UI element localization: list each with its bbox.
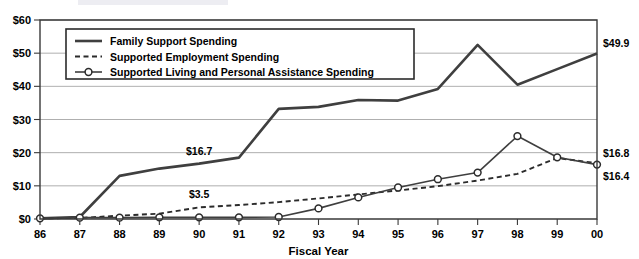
y-axis-tick-label: $50 [13,47,31,59]
data-point-marker [395,184,402,191]
data-point-marker [236,214,243,221]
data-value-label: $49.9 [603,37,629,49]
x-axis-tick-label: 93 [312,228,324,240]
data-point-marker [116,214,123,221]
legend-label: Family Support Spending [110,35,237,47]
y-axis-tick-label: $0 [19,213,31,225]
legend-label: Supported Employment Spending [110,51,279,63]
data-value-label: $16.8 [603,147,629,159]
data-point-marker [196,214,203,221]
data-value-label: $16.7 [186,145,212,157]
x-axis-tick-label: 91 [233,228,245,240]
x-axis-tick-label: 95 [392,228,404,240]
data-value-label: $3.5 [189,188,210,200]
data-value-label: $16.4 [603,170,629,182]
x-axis-tick-label: 87 [74,228,86,240]
y-axis-tick-label: $30 [13,114,31,126]
data-point-marker [315,205,322,212]
data-point-marker [76,214,83,221]
x-axis-tick-label: 96 [432,228,444,240]
data-point-marker [514,133,521,140]
y-axis-tick-label: $40 [13,80,31,92]
legend-label: Supported Living and Personal Assistance… [110,66,374,78]
x-axis-tick-label: 99 [551,228,563,240]
spending-line-chart: $0$10$20$30$40$50$60 8687888990919293949… [0,0,639,259]
x-axis-tick-label: 00 [591,228,603,240]
x-axis-tick-label: 90 [193,228,205,240]
x-axis-tick-label: 92 [273,228,285,240]
cropped-title-artifact [78,0,228,5]
data-point-marker [474,169,481,176]
chart-canvas: $0$10$20$30$40$50$60 8687888990919293949… [0,0,639,259]
data-point-marker [156,214,163,221]
y-axis-tick-label: $60 [13,14,31,26]
y-axis-tick-label: $10 [13,180,31,192]
x-axis-tick-label: 88 [113,228,125,240]
x-axis-tick-label: 94 [352,228,365,240]
x-axis-title: Fiscal Year [289,245,349,257]
x-axis-tick-label: 98 [511,228,523,240]
data-point-marker [434,176,441,183]
x-axis-tick-label: 97 [472,228,484,240]
x-axis-tick-label: 89 [153,228,165,240]
chart-legend: Family Support SpendingSupported Employm… [66,29,414,79]
legend-swatch-circle-marker [85,69,92,76]
x-axis-tick-label: 86 [34,228,46,240]
y-axis-tick-label: $20 [13,147,31,159]
data-point-marker [554,154,561,161]
x-axis-tick-labels: 868788899091929394959697989900 [34,228,603,240]
data-point-marker [355,194,362,201]
